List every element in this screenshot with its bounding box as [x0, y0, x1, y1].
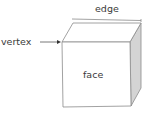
edge-indicator-line [72, 19, 141, 21]
cube-diagram: edge vertex face [0, 0, 153, 115]
cube-drawing [0, 0, 153, 115]
vertex-arrow-head-icon [57, 40, 61, 44]
cube-top-face [62, 23, 141, 42]
edge-label: edge [95, 4, 119, 14]
vertex-label: vertex [1, 37, 31, 47]
face-label: face [83, 70, 103, 80]
